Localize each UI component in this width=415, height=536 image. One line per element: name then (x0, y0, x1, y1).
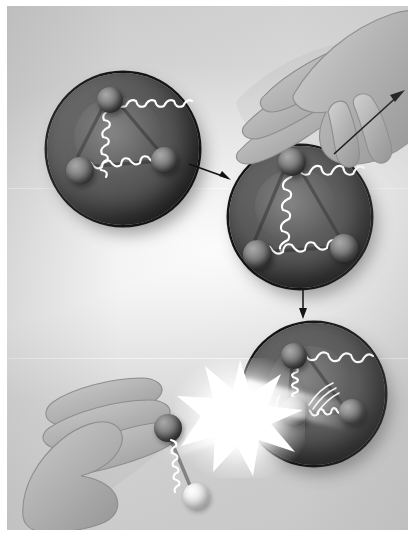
atom-right-panel-1 (151, 147, 178, 174)
atom-right-panel-3 (339, 399, 365, 425)
atom-top-panel-1 (97, 87, 123, 113)
bond-left-right-spring (83, 156, 160, 169)
bond-top-right-spring (117, 100, 192, 151)
vibrating-molecule-sphere (243, 323, 385, 465)
atom-top-panel-3 (281, 343, 307, 369)
atom-right-panel-2 (330, 234, 358, 262)
relaxed-molecule-sphere (47, 73, 199, 225)
bond-springs-panel-1 (47, 73, 199, 225)
vibration-arcs-right (303, 371, 343, 415)
illustration-figure (0, 0, 415, 536)
arrow-step2-to-step3 (293, 288, 313, 322)
projectile-tail-ball (183, 483, 209, 509)
atom-left-panel-1 (66, 157, 94, 185)
atom-center-panel-3 (279, 397, 309, 427)
hand-pulling-atom (222, 6, 408, 182)
scene-background (7, 6, 408, 530)
atom-left-panel-2 (243, 240, 272, 269)
